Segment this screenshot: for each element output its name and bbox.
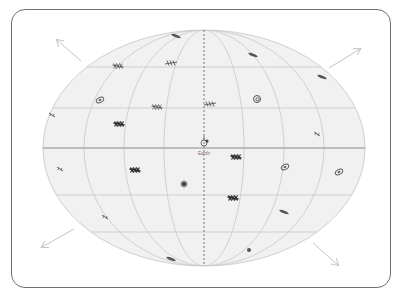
- galaxy-icon: [247, 248, 251, 252]
- arrow-upper-left-icon: [57, 40, 81, 61]
- earth-label: Earth: [198, 150, 210, 156]
- arrow-upper-right-icon: [329, 49, 360, 68]
- all-sky-map: Earth: [0, 0, 400, 303]
- galaxy-icon: [181, 181, 188, 188]
- arrow-lower-right-icon: [313, 243, 338, 265]
- arrow-lower-left-icon: [42, 229, 74, 247]
